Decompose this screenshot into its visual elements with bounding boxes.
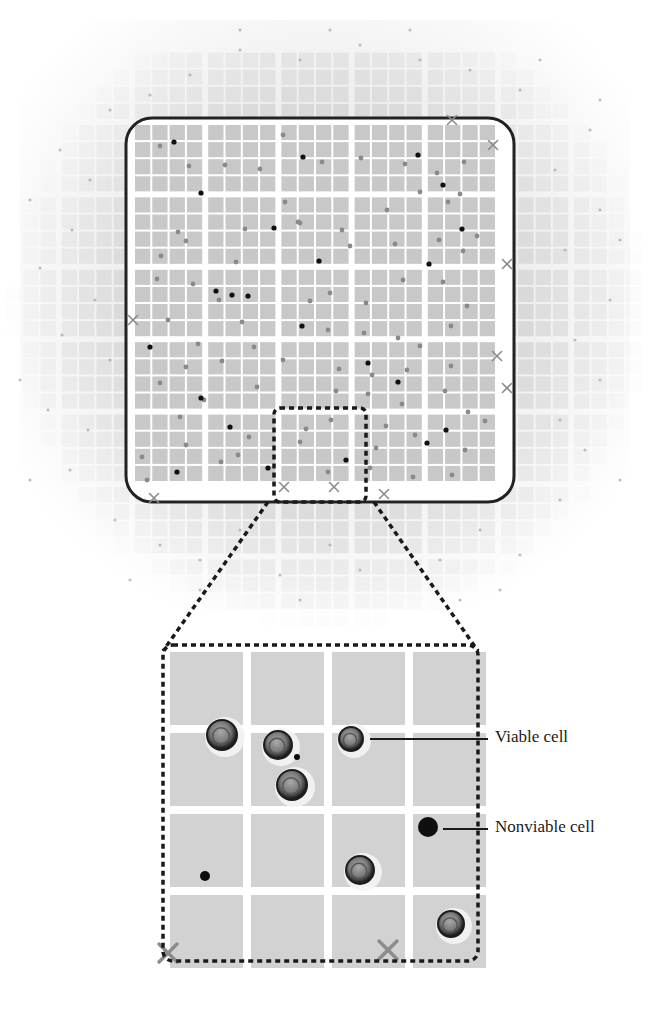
hemocytometer-figure: Viable cell Nonviable cell — [0, 0, 650, 1010]
viable-cell-label: Viable cell — [495, 727, 568, 747]
figure-canvas — [0, 0, 650, 1010]
nonviable-cell-label: Nonviable cell — [495, 817, 595, 837]
